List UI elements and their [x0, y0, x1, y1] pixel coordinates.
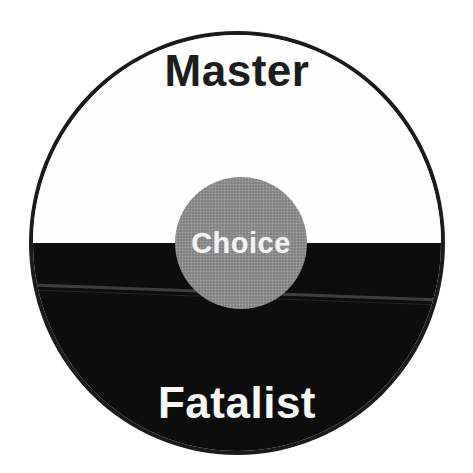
diagram-canvas: Master Fatalist Choice: [0, 0, 473, 473]
identity-circle: Master Fatalist Choice: [29, 31, 445, 455]
choice-label: Choice: [191, 227, 291, 260]
fatalist-label: Fatalist: [33, 381, 441, 425]
choice-circle: Choice: [175, 177, 307, 309]
master-label: Master: [33, 49, 441, 93]
